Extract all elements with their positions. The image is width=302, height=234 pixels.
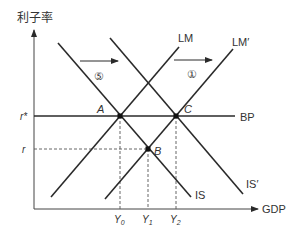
r-star-label: r*: [20, 111, 28, 122]
bp-label: BP: [240, 111, 255, 123]
point-c-label: C: [184, 103, 192, 115]
lm-curve: [51, 47, 179, 197]
y0-label: Y0: [114, 214, 125, 226]
is-label: IS: [195, 189, 205, 201]
y-axis-label: 利子率: [17, 10, 53, 25]
lm-prime-label: LM′: [232, 36, 249, 48]
point-a-label: A: [96, 103, 104, 115]
point-b-label: B: [154, 145, 161, 157]
lm-label: LM: [178, 32, 193, 44]
x-axis-label: GDP: [262, 203, 286, 215]
point-a-marker: [118, 114, 123, 119]
is-lm-bp-diagram: 利子率 GDP LM LM′ BP IS IS′ A B C r* r Y0 Y…: [0, 0, 302, 234]
is-prime-label: IS′: [246, 178, 258, 190]
r-label: r: [22, 144, 26, 155]
is-curve: [58, 43, 191, 197]
shift-marker-right: ①: [187, 68, 197, 80]
y1-label: Y1: [142, 214, 153, 226]
shift-marker-left: ⑤: [94, 70, 104, 82]
y2-label: Y2: [170, 214, 181, 226]
point-b-marker: [146, 147, 151, 152]
point-c-marker: [174, 114, 179, 119]
lm-prime-curve: [105, 49, 233, 199]
